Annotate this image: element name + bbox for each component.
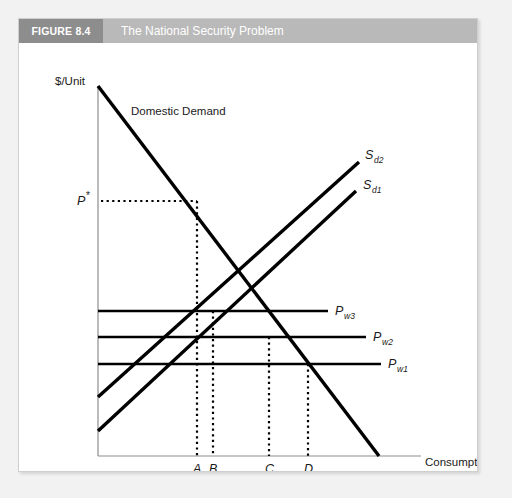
label-domestic-demand: Domestic Demand — [131, 105, 226, 117]
figure-title: The National Security Problem — [121, 24, 284, 38]
label-pstar-base: P — [77, 194, 86, 208]
label-sd2-base: S — [365, 148, 374, 162]
figure-header: FIGURE 8.4 The National Security Problem — [19, 19, 477, 43]
figure-root: FIGURE 8.4 The National Security Problem — [0, 0, 512, 498]
label-sd1-subscript: d1 — [372, 185, 382, 195]
x-tick-label-c: C — [265, 462, 275, 471]
figure-number-tag: FIGURE 8.4 — [19, 19, 103, 43]
label-pw1-base: P — [388, 357, 397, 371]
label-pw2-subscript: w2 — [382, 337, 393, 347]
x-tick-label-a: A — [192, 462, 201, 471]
figure-card: FIGURE 8.4 The National Security Problem — [18, 18, 478, 472]
chart-svg: $/Unit Consumption Domestic Demand S d2 … — [19, 43, 477, 471]
label-pw3: P w3 — [335, 304, 355, 321]
x-axis-label: Consumption — [425, 456, 477, 468]
x-tick-label-b: B — [209, 462, 217, 471]
label-pw1-subscript: w1 — [397, 364, 408, 374]
label-sd2-subscript: d2 — [374, 155, 384, 165]
label-pstar-superscript: * — [86, 190, 90, 201]
label-pstar: P * — [77, 190, 90, 208]
label-pw2: P w2 — [373, 330, 393, 347]
x-tick-label-d: D — [304, 462, 313, 471]
label-sd1-base: S — [363, 178, 372, 192]
curve-sd2 — [98, 162, 359, 397]
label-pw2-base: P — [373, 330, 382, 344]
label-pw1: P w1 — [388, 357, 408, 374]
label-pw3-subscript: w3 — [344, 311, 355, 321]
label-pw3-base: P — [335, 304, 344, 318]
y-axis-label: $/Unit — [55, 75, 86, 87]
plot-area: $/Unit Consumption Domestic Demand S d2 … — [19, 43, 477, 471]
label-sd2: S d2 — [365, 148, 384, 165]
label-sd1: S d1 — [363, 178, 382, 195]
